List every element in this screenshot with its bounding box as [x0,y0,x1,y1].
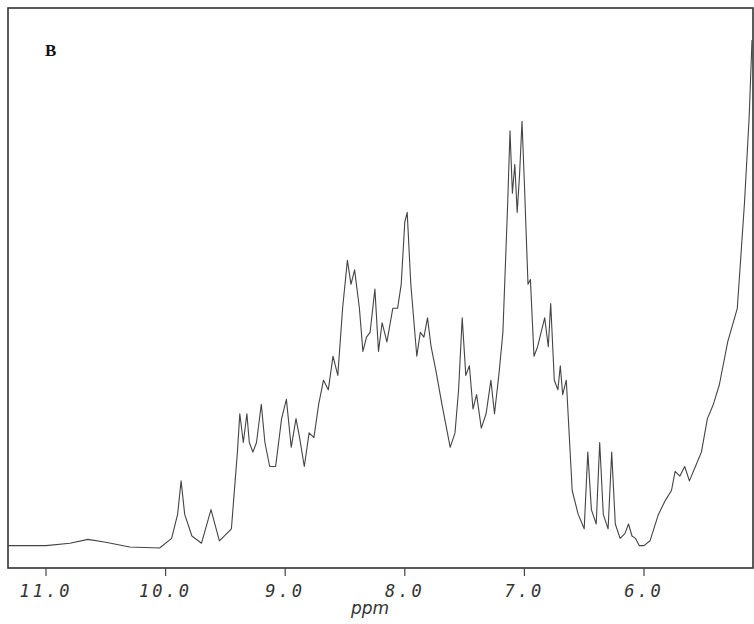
x-axis-label: ppm [350,598,389,618]
x-tick-label: 6.0 [624,581,664,601]
x-tick-label: 9.0 [265,581,305,601]
x-tick-label: 11.0 [20,581,73,601]
nmr-spectrum-chart: B 11.010.09.08.07.06.0 ppm [0,0,754,624]
spectrum-trace [8,40,752,548]
panel-label: B [45,41,56,60]
plot-frame [8,8,753,568]
x-tick-label: 10.0 [139,581,192,601]
x-tick-label: 7.0 [505,581,545,601]
x-axis-ticks: 11.010.09.08.07.06.0 [20,568,664,601]
x-tick-label: 8.0 [385,581,425,601]
